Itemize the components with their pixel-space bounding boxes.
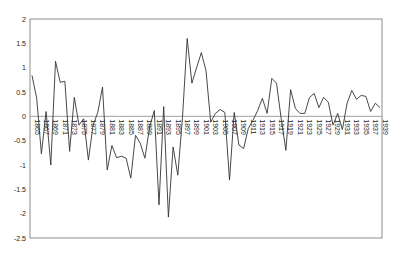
x-tick-label: 1935 [363, 119, 370, 135]
x-tick-label: 1893 [165, 119, 172, 135]
line-chart: 21.510.50-0.5-1-1.5-2-2.5 18651867186918… [0, 0, 395, 254]
y-tick-label: 2 [22, 16, 26, 23]
y-tick-label: -1 [20, 162, 26, 169]
x-tick-label: 1891 [156, 119, 163, 135]
y-tick-label: -2 [20, 210, 26, 217]
x-tick-label: 1911 [250, 119, 257, 134]
x-tick-label: 1937 [372, 119, 379, 135]
x-tick-label: 1939 [382, 119, 389, 135]
x-tick-label: 1913 [259, 119, 266, 135]
x-tick-label: 1881 [109, 119, 116, 135]
x-tick-label: 1925 [316, 119, 323, 135]
x-tick-label: 1897 [184, 119, 191, 135]
y-tick-label: 0.5 [16, 89, 26, 96]
x-tick-label: 1883 [118, 119, 125, 135]
x-tick-label: 1903 [212, 119, 219, 135]
y-tick-label: -2.5 [14, 235, 26, 242]
x-tick-label: 1877 [90, 119, 97, 135]
x-tick-label: 1909 [240, 119, 247, 135]
x-tick-label: 1927 [325, 119, 332, 135]
x-tick-label: 1901 [203, 119, 210, 135]
x-tick-label: 1931 [344, 119, 351, 135]
y-tick-label: -1.5 [14, 186, 26, 193]
x-tick-label: 1923 [306, 119, 313, 135]
x-tick-label: 1933 [353, 119, 360, 135]
y-tick-label: 1.5 [16, 40, 26, 47]
y-tick-label: -0.5 [14, 137, 26, 144]
x-tick-label: 1887 [137, 119, 144, 135]
x-tick-label: 1921 [297, 119, 304, 135]
x-tick-label: 1895 [175, 119, 182, 135]
y-tick-label: 1 [22, 64, 26, 71]
y-axis: 21.510.50-0.5-1-1.5-2-2.5 [14, 16, 26, 242]
x-tick-label: 1915 [269, 119, 276, 135]
y-tick-label: 0 [22, 113, 26, 120]
x-tick-label: 1869 [52, 119, 59, 135]
x-tick-label: 1885 [128, 119, 135, 135]
x-tick-label: 1899 [193, 119, 200, 135]
